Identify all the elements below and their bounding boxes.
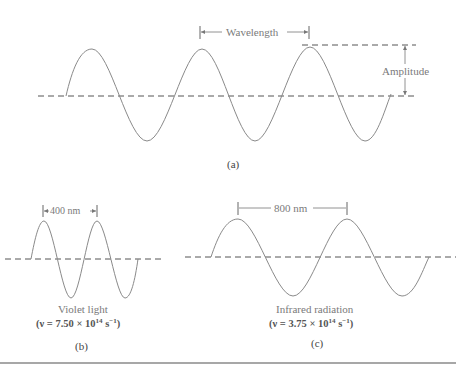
panel-b-name: Violet light — [58, 304, 108, 315]
freq-c-suffix: ) — [350, 318, 354, 329]
freq-c-prefix: (ν = 3.75 × 10 — [269, 318, 329, 329]
amplitude-label: Amplitude — [380, 66, 431, 77]
amplitude-arrowhead-up-icon — [403, 46, 407, 50]
panel-c-frequency: (ν = 3.75 × 1014 s−1) — [269, 319, 353, 330]
wavelength-arrowhead-right-icon — [304, 30, 308, 34]
panel-b-span-label: 400 nm — [50, 206, 80, 216]
panel-c-span-label: 800 nm — [274, 203, 307, 214]
freq-b-exp: 14 — [96, 317, 103, 325]
span-b-arrowhead-right-icon — [92, 209, 96, 213]
span-b-arrowhead-left-icon — [44, 209, 48, 213]
panel-c-wave — [185, 202, 456, 296]
panel-c-name: Infrared radiation — [276, 304, 353, 315]
panel-c-caption: (c) — [311, 338, 323, 349]
freq-b-suffix: ) — [117, 318, 121, 329]
panel-b-wave — [5, 205, 164, 298]
wavelength-label: Wavelength — [224, 27, 280, 38]
panel-b-caption: (b) — [75, 341, 88, 352]
freq-c-unit-exp: −1 — [342, 317, 350, 325]
panel-a-caption: (a) — [227, 159, 239, 170]
panel-a-wave — [38, 26, 418, 141]
panel-b-frequency: (ν = 7.50 × 1014 s−1) — [36, 319, 120, 330]
panel-a-sine-wave — [66, 47, 391, 141]
freq-c-exp: 14 — [329, 317, 336, 325]
freq-b-unit-exp: −1 — [109, 317, 117, 325]
wavelength-arrowhead-left-icon — [201, 30, 205, 34]
freq-b-prefix: (ν = 7.50 × 10 — [36, 318, 96, 329]
amplitude-arrowhead-down-icon — [403, 91, 407, 95]
